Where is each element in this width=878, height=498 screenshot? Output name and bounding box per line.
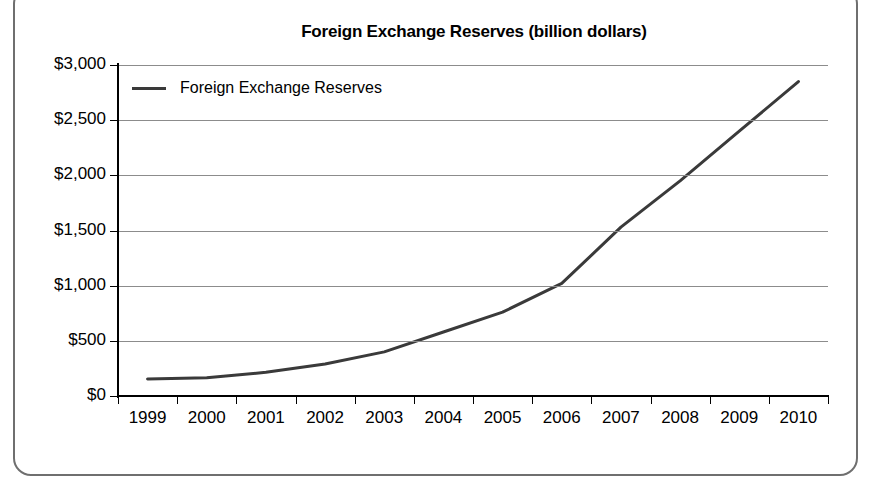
x-tick-label-2010: 2010 (769, 408, 828, 428)
x-tick-label-2009: 2009 (710, 408, 769, 428)
chart-legend: Foreign Exchange Reserves (132, 79, 382, 97)
x-tick-mark-12 (828, 397, 829, 404)
y-tick-label-0: $0 (10, 385, 106, 405)
x-tick-label-2008: 2008 (651, 408, 710, 428)
y-tick-label-2500: $2,500 (10, 109, 106, 129)
gridline-3000 (118, 65, 828, 66)
x-tick-mark-3 (296, 397, 297, 404)
x-tick-mark-0 (118, 397, 119, 404)
x-tick-mark-10 (710, 397, 711, 404)
y-tick-mark-1000 (110, 286, 118, 287)
y-tick-label-3000: $3,000 (10, 54, 106, 74)
x-tick-label-2002: 2002 (296, 408, 355, 428)
chart-title: Foreign Exchange Reserves (billion dolla… (118, 22, 830, 42)
x-tick-label-2007: 2007 (591, 408, 650, 428)
gridline-2500 (118, 120, 828, 121)
y-tick-mark-0 (110, 396, 118, 397)
y-tick-label-1000: $1,000 (10, 275, 106, 295)
y-tick-label-1500: $1,500 (10, 220, 106, 240)
y-tick-mark-3000 (110, 65, 118, 66)
x-tick-label-2005: 2005 (473, 408, 532, 428)
y-axis-tick-labels: $0$500$1,000$1,500$2,000$2,500$3,000 (0, 0, 106, 498)
x-tick-mark-4 (355, 397, 356, 404)
x-tick-mark-5 (414, 397, 415, 404)
x-tick-mark-6 (473, 397, 474, 404)
legend-label-foreign-exchange-reserves: Foreign Exchange Reserves (180, 79, 382, 97)
x-tick-label-2001: 2001 (236, 408, 295, 428)
gridline-500 (118, 341, 828, 342)
y-tick-mark-2500 (110, 120, 118, 121)
x-tick-mark-9 (651, 397, 652, 404)
x-tick-mark-8 (591, 397, 592, 404)
x-tick-mark-7 (532, 397, 533, 404)
gridline-1500 (118, 231, 828, 232)
x-tick-mark-11 (769, 397, 770, 404)
x-tick-label-2004: 2004 (414, 408, 473, 428)
x-tick-label-2000: 2000 (177, 408, 236, 428)
x-tick-mark-2 (236, 397, 237, 404)
gridline-2000 (118, 175, 828, 176)
y-tick-label-2000: $2,000 (10, 164, 106, 184)
legend-line-swatch (132, 87, 166, 90)
y-tick-mark-500 (110, 341, 118, 342)
x-tick-mark-1 (177, 397, 178, 404)
line-chart: Foreign Exchange Reserves (billion dolla… (0, 0, 878, 498)
y-tick-mark-1500 (110, 231, 118, 232)
x-tick-label-2003: 2003 (355, 408, 414, 428)
x-tick-label-1999: 1999 (118, 408, 177, 428)
gridline-1000 (118, 286, 828, 287)
y-tick-label-500: $500 (10, 330, 106, 350)
x-tick-label-2006: 2006 (532, 408, 591, 428)
y-tick-mark-2000 (110, 175, 118, 176)
